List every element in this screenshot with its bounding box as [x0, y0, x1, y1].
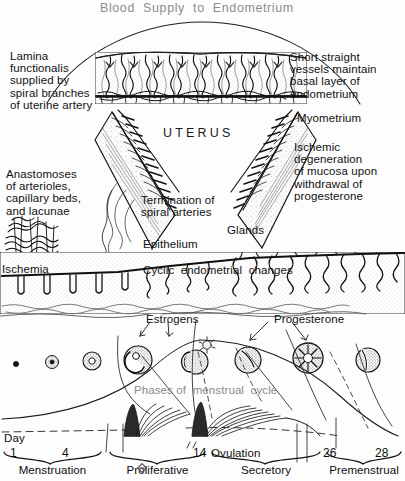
callout-glands: Glands: [227, 224, 264, 237]
callout-estrogens: Estrogens: [146, 313, 199, 326]
callout-progesterone: Progesterone: [274, 313, 344, 326]
timeline-phase-secretory: Secretory: [212, 464, 320, 477]
callout-short-straight-vessels: Short straight vessels maintain basal la…: [290, 51, 377, 100]
callout-anastomoses: Anastomoses of arterioles, capillary bed…: [6, 168, 81, 217]
callout-lamina-functionalis: Lamina functionalis supplied by spiral b…: [10, 50, 92, 111]
ovulation-label: Ovulation: [211, 447, 260, 460]
timeline-phase-menstruation: Menstruation: [4, 464, 101, 477]
callout-ischemia: Ischemia: [2, 263, 49, 276]
timeline-tick-4: 4: [62, 447, 69, 460]
timeline-tick-26: 26: [323, 447, 337, 460]
timeline-phase-proliferative: Proliferative: [110, 464, 205, 477]
callout-myometrium: Myometrium: [297, 112, 361, 125]
callout-ischemic-degeneration: Ischemic degeneration of mucosa upon wit…: [294, 141, 377, 202]
timeline-tick-28: 28: [375, 447, 389, 460]
blood-supply-to-endometrium-figure: Blood Supply to Endometrium Lamina funct…: [0, 0, 405, 481]
callout-termination-spiral-arteries: Termination of spiral arteries: [141, 194, 215, 218]
timeline-phase-premenstrual: Premenstrual: [327, 464, 401, 477]
callout-phases-of-menstrual-cycle: Phases of menstrual cycle: [134, 384, 277, 397]
uterus-label: UTERUS: [163, 127, 234, 140]
day-label: Day: [4, 432, 25, 445]
page-title: Blood Supply to Endometrium: [100, 2, 294, 15]
timeline-tick-14: 14: [193, 447, 207, 460]
callout-cyclic-endometrial-changes: Cyclic endometrial changes: [143, 264, 293, 277]
callout-epithelium: Epithelium: [143, 238, 198, 251]
timeline-tick-1: 1: [10, 447, 17, 460]
diamond-marker-icon: [137, 459, 146, 468]
